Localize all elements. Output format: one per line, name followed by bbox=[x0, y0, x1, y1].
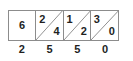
lattice-cell-4: 3 0 bbox=[91, 11, 118, 40]
bottom-label-1: 2 bbox=[8, 43, 36, 57]
cell-2-lower-right-digit: 4 bbox=[53, 26, 59, 37]
cell-3-lower-right-digit: 2 bbox=[81, 26, 87, 37]
cell-1-center-digit: 6 bbox=[9, 20, 35, 31]
bottom-label-2: 5 bbox=[36, 43, 64, 57]
lattice-cell-3: 1 2 bbox=[64, 11, 91, 40]
bottom-label-3: 5 bbox=[64, 43, 92, 57]
cell-4-upper-left-digit: 3 bbox=[94, 14, 100, 25]
lattice-multiplication-diagram: 6 2 4 1 2 3 0 2 5 5 0 bbox=[0, 0, 133, 61]
cell-2-upper-left-digit: 2 bbox=[39, 14, 45, 25]
cell-3-upper-left-digit: 1 bbox=[67, 14, 73, 25]
cell-4-lower-right-digit: 0 bbox=[109, 26, 115, 37]
lattice-grid: 6 2 4 1 2 3 0 bbox=[8, 10, 119, 41]
lattice-cell-2: 2 4 bbox=[36, 11, 63, 40]
lattice-cell-1: 6 bbox=[9, 11, 36, 40]
bottom-digit-labels: 2 5 5 0 bbox=[8, 43, 119, 57]
bottom-label-4: 0 bbox=[91, 43, 119, 57]
